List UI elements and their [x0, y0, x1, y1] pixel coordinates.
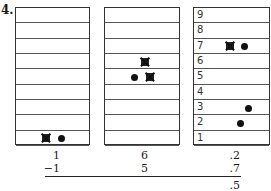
column-row: [105, 131, 179, 146]
column-row: [16, 69, 89, 84]
row-label: 7: [197, 40, 203, 51]
column-row: [105, 115, 179, 130]
counter-dot-icon: [58, 135, 65, 142]
crossed-counter-icon: [146, 73, 154, 81]
column-row: 4: [194, 85, 269, 100]
column-3-result: .5: [220, 179, 240, 191]
crossed-counter-icon: [42, 134, 50, 142]
column-row: 2: [194, 115, 269, 130]
counter-dot-icon: [245, 105, 252, 112]
column-row: [105, 39, 179, 54]
column-row: [16, 23, 89, 38]
column-row: [16, 8, 89, 23]
column-row: [105, 69, 179, 84]
column-2-top-value: 6: [128, 149, 148, 162]
column-1-top-value: 1: [40, 149, 60, 162]
column-3-top-value: .2: [220, 149, 240, 162]
row-label: 5: [197, 70, 203, 81]
column-row: [16, 39, 89, 54]
crossed-counter-icon: [226, 42, 234, 50]
column-row: 3: [194, 100, 269, 115]
column-row: [105, 100, 179, 115]
column-2-subtract-value: 5: [128, 162, 148, 175]
counter-dot-icon: [131, 74, 138, 81]
crossed-counter-icon: [141, 58, 149, 66]
column-row: [105, 8, 179, 23]
column-row: [16, 131, 89, 146]
column-row: [16, 54, 89, 69]
subtraction-line: [45, 176, 241, 177]
column-row: 6: [194, 54, 269, 69]
column-row: [16, 115, 89, 130]
column-row: 8: [194, 23, 269, 38]
column-3-subtract-value: .7: [220, 162, 240, 175]
counting-column-3: 9 8 7 6 5 4 3 2 1: [193, 7, 270, 145]
row-label: 8: [197, 24, 203, 35]
row-label: 9: [197, 9, 203, 20]
column-row: 1: [194, 131, 269, 146]
counting-column-2: [104, 7, 180, 145]
row-label: 4: [197, 86, 203, 97]
column-row: [105, 23, 179, 38]
row-label: 3: [197, 101, 203, 112]
column-1-subtract-value: −1: [40, 162, 60, 175]
column-row: 9: [194, 8, 269, 23]
row-label: 1: [197, 132, 203, 143]
problem-number: 4.: [1, 3, 14, 17]
column-row: [105, 85, 179, 100]
row-label: 6: [197, 55, 203, 66]
counter-dot-icon: [241, 43, 248, 50]
column-row: [16, 85, 89, 100]
row-label: 2: [197, 116, 203, 127]
column-row: 5: [194, 69, 269, 84]
column-row: [16, 100, 89, 115]
counting-column-1: [15, 7, 90, 145]
counter-dot-icon: [237, 120, 244, 127]
